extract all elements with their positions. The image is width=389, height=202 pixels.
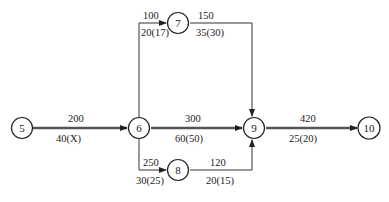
edge-9-10-top-label: 420 <box>300 113 316 124</box>
node-7: 7 <box>168 13 189 34</box>
edge-7-9-bottom-label: 35(30) <box>196 27 224 39</box>
node-8-label: 8 <box>175 164 181 176</box>
network-diagram: 200 40(X) 100 20(17) 150 35(30) 300 60(5… <box>0 0 389 202</box>
node-10: 10 <box>358 117 380 139</box>
node-5-label: 5 <box>19 122 25 134</box>
edge-7-9-top-label: 150 <box>198 10 214 21</box>
edge-6-7-top-label: 100 <box>143 10 159 21</box>
edge-6-8-top-label: 250 <box>143 157 159 168</box>
edge-5-6-top-label: 200 <box>68 113 84 124</box>
node-6: 6 <box>129 118 150 139</box>
edge-6-8-bottom-label: 30(25) <box>136 175 164 187</box>
edge-8-9-top-label: 120 <box>210 157 226 168</box>
node-6-label: 6 <box>136 122 142 134</box>
node-9: 9 <box>244 118 265 139</box>
edge-8-9-bottom-label: 20(15) <box>206 175 234 187</box>
edge-6-9-bottom-label: 60(50) <box>175 133 203 145</box>
node-9-label: 9 <box>251 122 257 134</box>
edge-6-7-bottom-label: 20(17) <box>141 27 169 39</box>
edge-9-10-bottom-label: 25(20) <box>289 133 317 145</box>
edge-6-9-top-label: 300 <box>185 113 201 124</box>
node-5: 5 <box>12 118 33 139</box>
node-10-label: 10 <box>364 122 376 134</box>
edge-5-6-bottom-label: 40(X) <box>56 133 82 145</box>
node-7-label: 7 <box>175 17 181 29</box>
node-8: 8 <box>168 160 189 181</box>
